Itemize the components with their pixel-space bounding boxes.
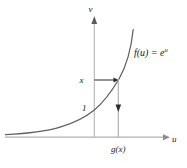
gx-value-label: g(x) (111, 144, 126, 154)
gx-guide-arrowhead-icon (116, 105, 122, 113)
x-value-label: x (79, 75, 84, 85)
v-axis-label: v (89, 4, 93, 14)
u-axis (5, 134, 170, 140)
v-axis (91, 16, 97, 137)
svg-text:f(u)=eu: f(u)=eu (134, 46, 169, 59)
u-axis-arrowhead-icon (163, 134, 170, 140)
unit-tick-label: 1 (82, 103, 87, 113)
gx-value-guide-line (116, 79, 122, 138)
v-axis-arrowhead-icon (91, 16, 97, 24)
curve-exponent: u (165, 46, 169, 53)
curve-equals-sign: = (151, 47, 157, 58)
exponential-function-figure: v u x 1 g(x) f(u)=eu (0, 0, 187, 168)
curve-function-name: f(u) (134, 47, 149, 59)
x-value-guide-arrow (94, 77, 118, 82)
u-axis-label: u (172, 134, 177, 144)
figure-canvas: v u x 1 g(x) f(u)=eu (0, 0, 187, 168)
curve-equation-label: f(u)=eu (134, 46, 169, 59)
